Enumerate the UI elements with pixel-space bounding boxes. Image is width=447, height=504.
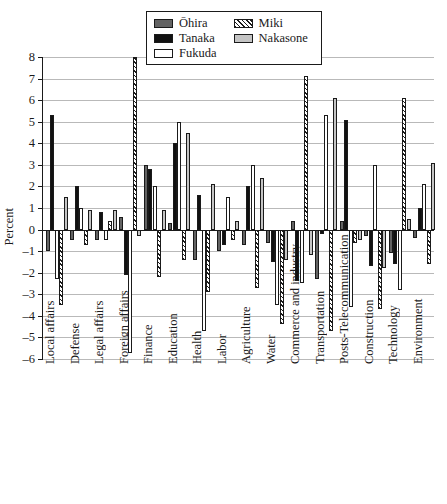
y-axis-tick-label: 1 bbox=[29, 201, 35, 216]
bar bbox=[186, 133, 190, 230]
bar bbox=[50, 115, 54, 229]
legend-swatch-icon bbox=[154, 49, 173, 58]
bar bbox=[119, 217, 123, 230]
bar bbox=[206, 230, 210, 293]
bar bbox=[197, 195, 201, 230]
legend-label: Ōhira bbox=[179, 16, 207, 30]
y-axis-tick-label: –1 bbox=[23, 244, 36, 259]
bar bbox=[402, 98, 406, 230]
y-axis-tick-label: –2 bbox=[23, 265, 36, 280]
legend-swatch-icon bbox=[154, 34, 173, 43]
bar bbox=[177, 122, 181, 230]
bar bbox=[251, 165, 255, 230]
bar bbox=[333, 98, 337, 230]
bar bbox=[202, 230, 206, 331]
bar-group bbox=[68, 57, 93, 359]
legend-entry[interactable]: Miki bbox=[234, 16, 315, 30]
x-axis-tick-label: Labor bbox=[215, 334, 230, 364]
bar-chart: ŌhiraMikiTanakaNakasoneFukuda Percent 87… bbox=[0, 0, 447, 504]
bar bbox=[422, 184, 426, 229]
bar bbox=[128, 230, 132, 353]
bar bbox=[59, 230, 63, 306]
bar bbox=[108, 221, 112, 230]
bar bbox=[340, 221, 344, 230]
bar bbox=[349, 230, 353, 308]
bar-group bbox=[141, 57, 166, 359]
x-axis-tick-label: Construction bbox=[362, 299, 377, 364]
bar bbox=[418, 208, 422, 230]
x-axis-tick-label: Agriculture bbox=[239, 306, 254, 364]
bar bbox=[99, 212, 103, 229]
x-axis-tick-label: Health bbox=[190, 331, 205, 364]
legend-entry[interactable]: Fukuda bbox=[154, 46, 224, 60]
bar bbox=[104, 230, 108, 241]
y-axis-tick-label: 6 bbox=[29, 93, 35, 108]
y-axis-tick-label: –4 bbox=[23, 308, 36, 323]
bar bbox=[284, 230, 288, 260]
bar bbox=[389, 230, 393, 254]
bar bbox=[124, 230, 128, 275]
bar bbox=[113, 210, 117, 229]
y-axis-tick-label: 4 bbox=[29, 136, 35, 151]
bar bbox=[226, 197, 230, 229]
bar bbox=[344, 120, 348, 230]
bar bbox=[55, 230, 59, 280]
x-axis-tick-label: Environment bbox=[411, 299, 426, 364]
bar bbox=[304, 76, 308, 229]
y-axis-tick-label: 8 bbox=[29, 50, 35, 65]
bar bbox=[378, 230, 382, 310]
legend-entry[interactable]: Tanaka bbox=[154, 31, 224, 45]
y-axis-tick-label: 7 bbox=[29, 71, 35, 86]
y-axis-title: Percent bbox=[2, 208, 17, 245]
y-axis-tick-label: –5 bbox=[23, 330, 36, 345]
bar bbox=[242, 230, 246, 245]
bar bbox=[260, 178, 264, 230]
bar bbox=[79, 208, 83, 230]
x-axis-tick-label: Legal affairs bbox=[92, 301, 107, 364]
bar bbox=[271, 230, 275, 262]
bar bbox=[182, 230, 186, 260]
bar bbox=[369, 230, 373, 267]
x-axis-tick-label: Water bbox=[264, 334, 279, 364]
bar bbox=[231, 230, 235, 241]
x-axis-tick-label: Local affairs bbox=[43, 301, 58, 364]
y-axis-tick-label: –6 bbox=[23, 352, 36, 367]
bar bbox=[162, 210, 166, 229]
bar bbox=[413, 230, 417, 239]
bar bbox=[75, 186, 79, 229]
bar bbox=[211, 184, 215, 229]
bar bbox=[64, 197, 68, 229]
bar bbox=[70, 230, 74, 241]
bar bbox=[148, 169, 152, 229]
bar bbox=[275, 230, 279, 306]
x-axis-tick-label: Technology bbox=[386, 305, 401, 364]
bar bbox=[84, 230, 88, 245]
legend-label: Miki bbox=[259, 16, 283, 30]
bar bbox=[246, 186, 250, 229]
legend-swatch-icon bbox=[234, 34, 253, 43]
legend-label: Fukuda bbox=[179, 46, 217, 60]
legend-label: Nakasone bbox=[259, 31, 308, 45]
bar-group bbox=[264, 57, 289, 359]
bar bbox=[398, 230, 402, 290]
bar bbox=[431, 163, 435, 230]
bar bbox=[95, 230, 99, 241]
bar bbox=[46, 230, 50, 252]
legend-entry[interactable]: Nakasone bbox=[234, 31, 315, 45]
x-axis-tick-label: Transportation bbox=[313, 291, 328, 364]
legend-swatch-icon bbox=[234, 19, 253, 28]
y-axis-tick-label: 2 bbox=[29, 179, 35, 194]
bar bbox=[235, 221, 239, 230]
legend-entry[interactable]: Ōhira bbox=[154, 16, 224, 30]
bar-group bbox=[215, 57, 240, 359]
bar bbox=[157, 230, 161, 277]
bar bbox=[427, 230, 431, 265]
bar bbox=[353, 230, 357, 243]
bar bbox=[222, 230, 226, 245]
bar bbox=[255, 230, 259, 288]
x-axis-tick-label: Finance bbox=[141, 324, 156, 364]
bar bbox=[280, 230, 284, 325]
bar bbox=[382, 230, 386, 269]
bar bbox=[193, 230, 197, 260]
bar bbox=[407, 219, 411, 230]
